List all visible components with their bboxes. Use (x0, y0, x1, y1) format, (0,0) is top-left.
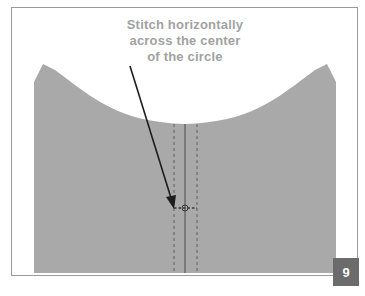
step-number: 9 (342, 265, 349, 280)
caption-line-1: Stitch horizontally (118, 17, 252, 33)
caption-line-2: across the center (118, 33, 252, 49)
instruction-caption: Stitch horizontally across the center of… (118, 17, 252, 65)
caption-line-3: of the circle (118, 49, 252, 65)
step-number-badge: 9 (333, 258, 359, 286)
